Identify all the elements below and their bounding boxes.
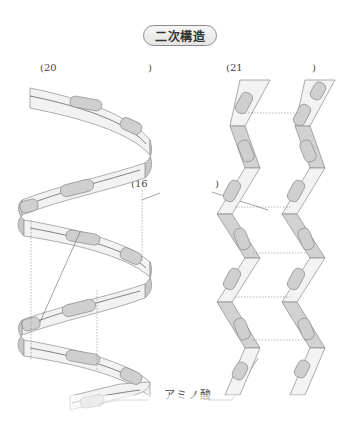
- beta-strand-1: [217, 80, 270, 395]
- helix-residues: [19, 95, 144, 408]
- helix-dotted-lines: [31, 190, 142, 370]
- beta-sheet: [217, 80, 335, 395]
- alpha-helix: [18, 88, 152, 410]
- protein-structure-illustration: [0, 0, 355, 421]
- beta-strand-2: [282, 80, 335, 395]
